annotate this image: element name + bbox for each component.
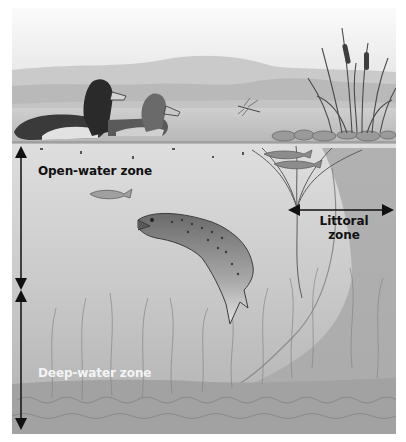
open-water-zone-label: Open-water zone — [38, 164, 152, 178]
lake-zones-illustration: Open-water zone Littoral zone Deep-water… — [12, 8, 396, 434]
cattail-head — [364, 52, 369, 70]
lake-bottom — [12, 378, 396, 434]
littoral-zone-label: Littoral zone — [304, 214, 384, 242]
deep-water-zone-label: Deep-water zone — [38, 366, 151, 380]
littoral-zone-label-line2: zone — [304, 228, 384, 242]
littoral-zone-label-line1: Littoral — [304, 214, 384, 228]
